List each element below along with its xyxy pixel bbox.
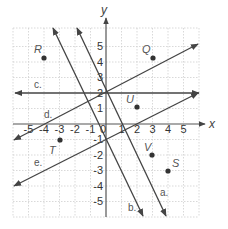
point-V (149, 152, 154, 157)
svg-text:e.: e. (34, 157, 42, 168)
coordinate-plane: x y -5 -4 -3 -2 -1 1 2 3 4 5 0 5 4 3 2 1… (0, 0, 228, 229)
svg-text:-5: -5 (24, 123, 34, 135)
svg-text:-5: -5 (93, 195, 103, 207)
svg-text:U: U (126, 93, 134, 105)
svg-text:-2: -2 (70, 123, 80, 135)
point-U (134, 104, 139, 109)
svg-text:-3: -3 (93, 164, 103, 176)
x-tick-labels: -5 -4 -3 -2 -1 1 2 3 4 5 0 (24, 123, 187, 135)
point-Q (150, 55, 155, 60)
svg-text:3: 3 (149, 123, 155, 135)
svg-text:Q: Q (142, 43, 151, 55)
y-axis-label: y (100, 3, 108, 17)
svg-text:4: 4 (165, 123, 171, 135)
svg-text:T: T (49, 144, 57, 156)
svg-text:-3: -3 (55, 123, 65, 135)
svg-text:a.: a. (160, 187, 168, 198)
svg-text:d.: d. (44, 109, 52, 120)
svg-text:-2: -2 (93, 149, 103, 161)
point-R (41, 55, 46, 60)
svg-text:R: R (34, 43, 42, 55)
point-T (57, 137, 62, 142)
svg-text:b.: b. (128, 202, 136, 213)
svg-text:4: 4 (97, 56, 103, 68)
svg-text:5: 5 (97, 40, 103, 52)
x-axis-label: x (208, 117, 216, 131)
point-S (165, 168, 170, 173)
svg-text:1: 1 (97, 102, 103, 114)
svg-text:S: S (172, 157, 180, 169)
svg-text:c.: c. (34, 79, 42, 90)
svg-text:-4: -4 (93, 180, 103, 192)
svg-text:5: 5 (180, 123, 186, 135)
svg-text:V: V (144, 141, 153, 153)
